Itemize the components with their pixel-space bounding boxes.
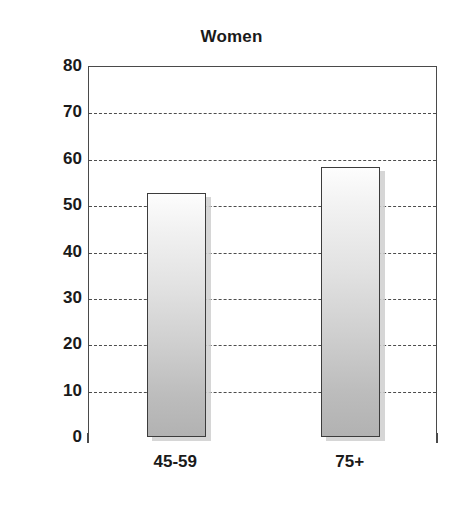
- y-axis-tick-label: 30: [12, 288, 82, 308]
- plot-area: [88, 66, 437, 437]
- y-axis-tick-label: 0: [12, 427, 82, 447]
- x-axis-tick-label: 75+: [290, 452, 410, 472]
- y-axis-tick-label: 80: [12, 56, 82, 76]
- y-axis-baseline-stub-left: [87, 433, 89, 443]
- y-axis-tick-label: 70: [12, 102, 82, 122]
- y-axis-tick-label: 60: [12, 149, 82, 169]
- bar-chart-figure: Women 01020304050607080 45-5975+: [0, 0, 463, 506]
- bar[interactable]: [321, 167, 380, 437]
- bar-body: [321, 167, 380, 437]
- y-axis-tick-label: 50: [12, 195, 82, 215]
- y-axis-tick-labels: 01020304050607080: [6, 0, 82, 506]
- y-axis-tick-label: 20: [12, 334, 82, 354]
- y-axis-tick-label: 10: [12, 381, 82, 401]
- bar[interactable]: [147, 193, 206, 437]
- y-axis-baseline-stub-right: [436, 433, 438, 443]
- x-axis-tick-label: 45-59: [115, 452, 235, 472]
- y-axis-tick-label: 40: [12, 242, 82, 262]
- gridline: [89, 160, 436, 161]
- bar-body: [147, 193, 206, 437]
- gridline: [89, 113, 436, 114]
